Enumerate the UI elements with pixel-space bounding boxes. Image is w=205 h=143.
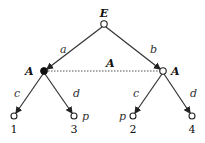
payoff-2: 2 <box>130 123 137 136</box>
game-tree-diagram: E a b A A A c d c d p p 1 3 2 4 <box>0 0 205 143</box>
edge-label-b: b <box>150 43 157 56</box>
player-label-right: A <box>170 65 180 78</box>
payoff-4: 4 <box>189 123 196 136</box>
edge-right-d <box>164 74 190 113</box>
root-node <box>101 21 107 27</box>
edge-label-right-d: d <box>190 87 197 100</box>
game-tree-svg: E a b A A A c d c d p p 1 3 2 4 <box>0 0 205 143</box>
player-label-left: A <box>24 65 34 78</box>
edge-left-d <box>45 74 72 113</box>
information-set-label: A <box>105 57 115 70</box>
edge-label-left-d: d <box>73 87 80 100</box>
node-left <box>41 68 48 75</box>
edge-a <box>47 27 102 69</box>
edge-label-left-c: c <box>14 87 20 100</box>
leaf-1 <box>11 113 17 119</box>
payoff-1: 1 <box>11 123 18 136</box>
leaf-4 <box>189 113 195 119</box>
root-label: E <box>99 7 109 20</box>
edge-label-right-c: c <box>133 87 139 100</box>
leaf-2 <box>71 113 77 119</box>
mark-p-left: p <box>82 110 89 123</box>
payoff-3: 3 <box>71 123 78 136</box>
node-right <box>160 68 166 74</box>
mark-p-right: p <box>119 110 126 123</box>
edge-label-a: a <box>60 43 67 56</box>
leaf-3 <box>130 113 136 119</box>
